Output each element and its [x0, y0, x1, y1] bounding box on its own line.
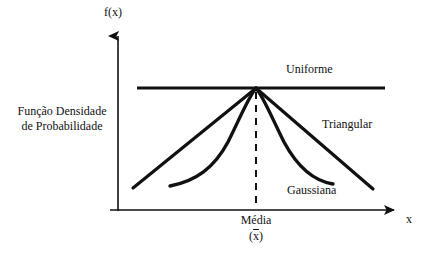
mean-symbol-close-paren: )	[259, 229, 263, 243]
mean-label: Média	[214, 213, 298, 229]
triangular-distribution-left-segment	[133, 89, 255, 188]
triangular-curve-label: Triangular	[322, 118, 372, 131]
y-axis-description-line2: de Probabilidade	[10, 119, 114, 134]
y-axis-description-line1: Função Densidade	[10, 104, 114, 119]
mean-symbol: (x)	[214, 229, 298, 245]
mean-annotation: Média (x)	[214, 213, 298, 244]
gaussian-distribution-left-curve	[170, 88, 256, 186]
y-axis-description: Função Densidade de Probabilidade	[10, 104, 114, 134]
y-axis-label: f(x)	[104, 6, 122, 19]
gaussian-distribution-right-curve	[256, 88, 333, 184]
triangular-distribution-right-segment	[257, 89, 373, 189]
x-axis-label: x	[406, 213, 412, 226]
gaussian-curve-label: Gaussiana	[287, 184, 336, 197]
probability-density-figure: f(x) x Função Densidade de Probabilidade…	[0, 0, 431, 261]
uniform-curve-label: Uniforme	[286, 63, 333, 76]
